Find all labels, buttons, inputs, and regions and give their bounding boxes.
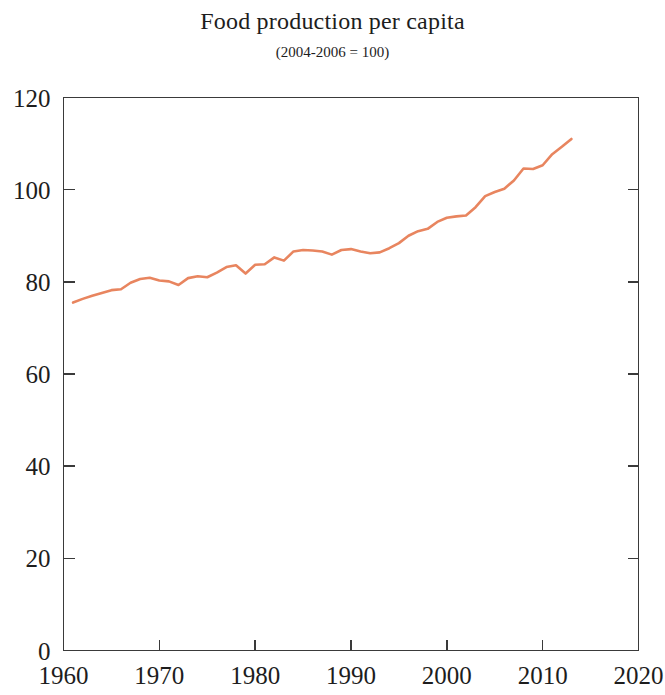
x-axis-tick-label: 2000 <box>422 662 472 689</box>
x-axis-tick-label: 1970 <box>134 662 184 689</box>
y-axis-tick-label: 120 <box>13 85 51 112</box>
x-axis-tick-label: 1980 <box>230 662 280 689</box>
y-axis-tick-label: 60 <box>26 361 51 388</box>
y-axis-tick-label: 0 <box>38 638 51 665</box>
chart-figure: Food production per capita (2004-2006 = … <box>0 0 665 695</box>
y-axis-tick-label: 100 <box>13 177 51 204</box>
data-series-group <box>73 139 571 303</box>
x-axis-tick-label: 1990 <box>326 662 376 689</box>
y-axis-tick-labels: 020406080100120 <box>13 85 51 665</box>
x-axis-tick-label: 2020 <box>614 662 664 689</box>
x-axis-tick-labels: 1960197019801990200020102020 <box>39 662 664 689</box>
x-axis-tick-label: 1960 <box>39 662 89 689</box>
data-series-line <box>73 139 571 303</box>
x-axis-tick-label: 2010 <box>518 662 568 689</box>
tick-marks-group <box>64 190 639 651</box>
plot-area: 020406080100120 196019701980199020002010… <box>0 0 665 695</box>
y-axis-tick-label: 40 <box>26 453 51 480</box>
axes-group <box>64 98 639 651</box>
y-axis-tick-label: 20 <box>26 545 51 572</box>
y-axis-tick-label: 80 <box>26 269 51 296</box>
plot-frame <box>64 98 639 651</box>
